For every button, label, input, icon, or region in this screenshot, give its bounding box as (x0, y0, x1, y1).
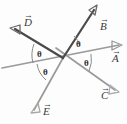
angle-arc-left (32, 44, 34, 63)
vector-label-c-text: C (101, 89, 108, 101)
angle-arc-right (89, 54, 91, 71)
vector-label-d-text: D (24, 16, 32, 28)
angle-label-upper-right: θ (76, 40, 81, 49)
angle-label-lower-left: θ (43, 68, 48, 77)
vector-label-e-text: E (43, 105, 50, 117)
angle-label-left: θ (37, 50, 42, 59)
vector-label-a-text: A (112, 52, 119, 64)
vector-label-b-text: B (100, 20, 107, 32)
vector-label-b: → B (100, 17, 108, 32)
angle-label-right: θ (84, 59, 89, 68)
vector-label-d: → D (24, 13, 32, 28)
vector-angle-diagram: → A → B → C → D → E θ θ θ θ (0, 0, 127, 124)
vector-label-a: → A (112, 49, 120, 64)
vector-label-c: → C (101, 86, 109, 101)
vector-label-e: → E (43, 102, 51, 117)
